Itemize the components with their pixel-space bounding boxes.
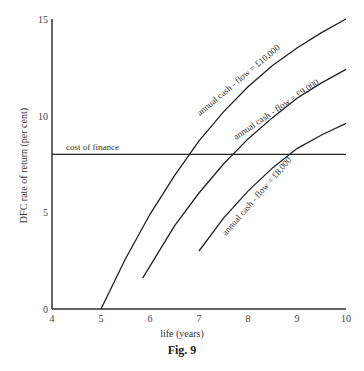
y-tick: 10 xyxy=(38,111,48,122)
x-tick: 7 xyxy=(197,313,202,324)
y-tick: 0 xyxy=(43,304,48,315)
series-line xyxy=(143,69,346,278)
x-tick: 10 xyxy=(341,313,351,324)
x-tick: 5 xyxy=(99,313,104,324)
cost-of-finance-label: cost of finance xyxy=(66,142,119,152)
x-tick: 6 xyxy=(148,313,153,324)
label-cashflow-9000: annual cash - flow = £9,000 xyxy=(232,77,321,142)
x-tick: 9 xyxy=(295,313,300,324)
label-cashflow-10000: annual cash - flow = £10,000 xyxy=(195,42,282,118)
chart-plot: 45678910051015 cost of finance annual ca… xyxy=(0,0,364,371)
y-tick: 15 xyxy=(38,14,48,25)
x-axis-label: life (years) xyxy=(0,328,364,339)
label-cashflow-8000: annual cash - flow = £8,000 xyxy=(220,154,294,237)
y-tick: 5 xyxy=(43,207,48,218)
x-tick: 8 xyxy=(246,313,251,324)
x-tick: 4 xyxy=(50,313,55,324)
figure-caption: Fig. 9 xyxy=(0,343,364,358)
y-axis-label: DFC rate of return (per cent) xyxy=(18,91,29,241)
